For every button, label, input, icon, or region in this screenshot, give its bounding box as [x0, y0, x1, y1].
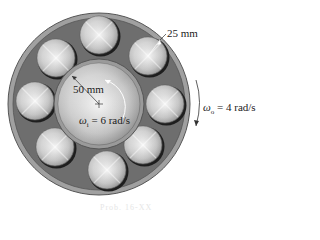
omega-symbol: ω [203, 101, 211, 113]
omega-symbol: ω [79, 114, 87, 126]
figure-caption: Prob. 16-XX [100, 203, 152, 212]
inner-radius-label: 50 mm [73, 84, 104, 95]
omega-outer-value: = 4 rad/s [214, 101, 255, 113]
omega-inner-label: ωi = 6 rad/s [79, 115, 130, 129]
roller-radius-label: 25 mm [167, 28, 198, 39]
omega-inner-value: = 6 rad/s [89, 114, 130, 126]
omega-outer-label: ωo = 4 rad/s [203, 102, 256, 116]
